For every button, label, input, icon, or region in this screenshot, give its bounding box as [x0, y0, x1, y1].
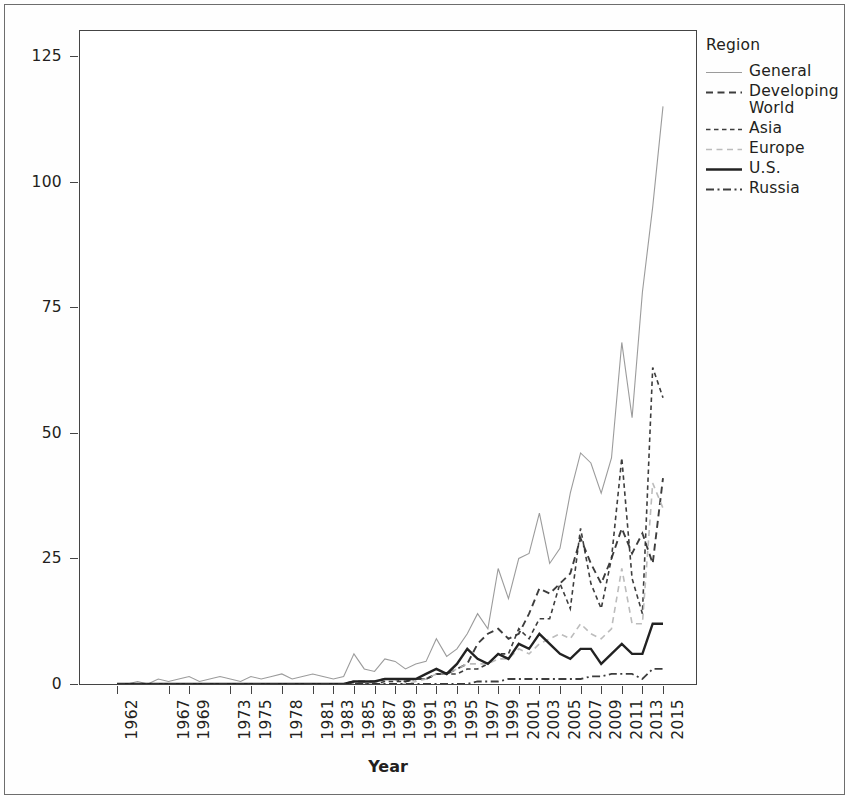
- x-tick-label-1989: 1989: [401, 699, 419, 740]
- x-tick-label-1973: 1973: [236, 699, 254, 740]
- y-tick-mark-100: [70, 182, 78, 183]
- legend-item-label: General: [749, 63, 811, 80]
- x-tick-label-2001: 2001: [525, 699, 543, 740]
- x-tick-label-1999: 1999: [504, 699, 522, 740]
- x-tick-mark-2011: [622, 686, 623, 694]
- x-tick-label-1983: 1983: [339, 699, 357, 740]
- x-tick-mark-1978: [282, 686, 283, 694]
- x-tick-mark-1975: [251, 686, 252, 694]
- series-line-u-s: [117, 624, 663, 684]
- series-line-asia: [117, 368, 663, 684]
- x-tick-label-1978: 1978: [288, 699, 306, 740]
- x-tick-label-2015: 2015: [669, 699, 687, 740]
- x-tick-mark-1993: [436, 686, 437, 694]
- x-tick-mark-2005: [560, 686, 561, 694]
- legend-item-u-s[interactable]: U.S.: [706, 160, 846, 177]
- x-tick-mark-2001: [519, 686, 520, 694]
- y-tick-mark-125: [70, 56, 78, 57]
- x-tick-mark-1981: [313, 686, 314, 694]
- x-tick-label-1987: 1987: [381, 699, 399, 740]
- legend-key-icon: [706, 64, 742, 81]
- y-tick-mark-75: [70, 307, 78, 308]
- x-tick-mark-1989: [395, 686, 396, 694]
- x-tick-label-1967: 1967: [175, 699, 193, 740]
- x-tick-mark-1973: [230, 686, 231, 694]
- x-tick-label-1993: 1993: [442, 699, 460, 740]
- x-tick-mark-1991: [416, 686, 417, 694]
- legend-key-icon: [706, 121, 742, 138]
- x-tick-mark-2013: [642, 686, 643, 694]
- x-tick-mark-2007: [581, 686, 582, 694]
- legend-item-europe[interactable]: Europe: [706, 140, 846, 157]
- legend: Region GeneralDeveloping WorldAsiaEurope…: [706, 36, 846, 200]
- x-tick-label-1981: 1981: [319, 699, 337, 740]
- x-tick-label-2013: 2013: [648, 699, 666, 740]
- x-tick-mark-1967: [169, 686, 170, 694]
- x-tick-label-1997: 1997: [484, 699, 502, 740]
- x-tick-mark-2009: [601, 686, 602, 694]
- x-tick-mark-1962: [117, 686, 118, 694]
- y-axis-labels: 0255075100125: [0, 0, 62, 800]
- legend-item-russia[interactable]: Russia: [706, 180, 846, 197]
- line-chart-svg: [80, 31, 696, 684]
- legend-entries: GeneralDeveloping WorldAsiaEuropeU.S.Rus…: [706, 63, 846, 197]
- x-tick-label-2005: 2005: [566, 699, 584, 740]
- x-tick-mark-1969: [189, 686, 190, 694]
- x-tick-mark-1985: [354, 686, 355, 694]
- y-tick-mark-25: [70, 558, 78, 559]
- legend-item-label: Developing World: [749, 83, 846, 117]
- plot-panel: [79, 30, 697, 685]
- x-tick-mark-2003: [539, 686, 540, 694]
- x-tick-label-1969: 1969: [195, 699, 213, 740]
- x-tick-label-2009: 2009: [607, 699, 625, 740]
- legend-key-icon: [706, 84, 742, 101]
- legend-item-asia[interactable]: Asia: [706, 120, 846, 137]
- x-tick-mark-2015: [663, 686, 664, 694]
- y-tick-label-50: 50: [42, 424, 62, 442]
- series-line-europe: [117, 483, 663, 684]
- x-tick-label-2011: 2011: [628, 699, 646, 740]
- y-tick-label-25: 25: [42, 549, 62, 567]
- y-tick-label-100: 100: [32, 173, 63, 191]
- x-tick-label-1991: 1991: [422, 699, 440, 740]
- figure-container: 0255075100125 Year Region GeneralDevelop…: [0, 0, 850, 800]
- legend-item-label: Russia: [749, 180, 800, 197]
- x-tick-label-1985: 1985: [360, 699, 378, 740]
- y-tick-mark-50: [70, 433, 78, 434]
- legend-item-label: Europe: [749, 140, 805, 157]
- y-tick-label-0: 0: [52, 675, 62, 693]
- legend-item-label: U.S.: [749, 160, 781, 177]
- x-tick-mark-1997: [478, 686, 479, 694]
- x-tick-label-1962: 1962: [123, 699, 141, 740]
- y-tick-label-125: 125: [32, 47, 63, 65]
- series-line-developing-world: [117, 478, 663, 684]
- x-tick-label-2007: 2007: [587, 699, 605, 740]
- legend-title: Region: [706, 36, 846, 54]
- legend-key-icon: [706, 161, 742, 178]
- y-tick-label-75: 75: [42, 298, 62, 316]
- x-tick-mark-1987: [375, 686, 376, 694]
- legend-key-icon: [706, 141, 742, 158]
- x-tick-mark-1999: [498, 686, 499, 694]
- legend-item-general[interactable]: General: [706, 63, 846, 80]
- x-axis-title: Year: [79, 757, 697, 776]
- legend-item-label: Asia: [749, 120, 782, 137]
- x-tick-label-1995: 1995: [463, 699, 481, 740]
- x-tick-mark-1983: [333, 686, 334, 694]
- x-tick-mark-1995: [457, 686, 458, 694]
- y-tick-mark-0: [70, 684, 78, 685]
- x-tick-label-1975: 1975: [257, 699, 275, 740]
- legend-item-developing-world[interactable]: Developing World: [706, 83, 846, 117]
- x-tick-label-2003: 2003: [545, 699, 563, 740]
- legend-key-icon: [706, 181, 742, 198]
- series-line-general: [117, 106, 663, 684]
